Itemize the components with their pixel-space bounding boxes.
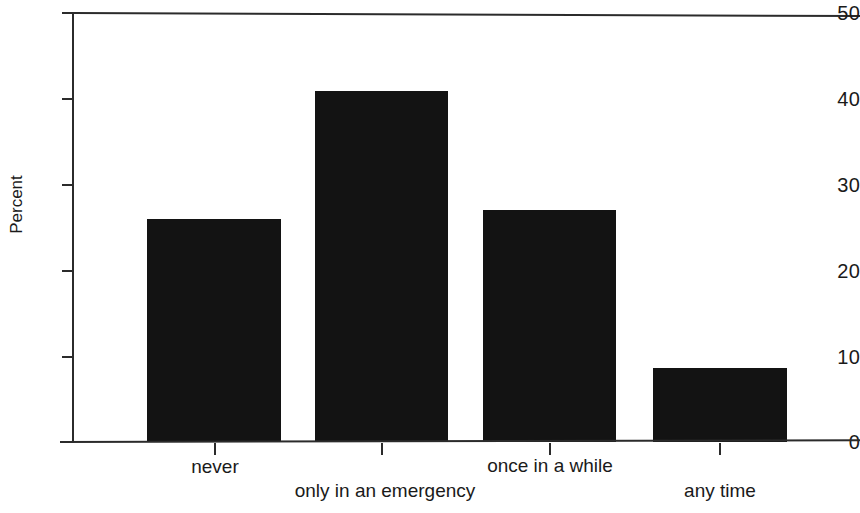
y-tick-mark-30: [62, 184, 73, 186]
x-axis-label-only-in-an-emergency: only in an emergency: [285, 481, 485, 500]
x-tick-mark-never: [214, 443, 216, 455]
y-axis-title: Percent: [8, 155, 25, 255]
bar-once-in-a-while: [483, 210, 616, 442]
y-tick-mark-40: [62, 98, 73, 100]
y-tick-label-40: 40: [808, 89, 860, 109]
y-tick-label-50: 50: [808, 3, 860, 23]
y-tick-mark-20: [62, 270, 73, 272]
y-tick-mark-50: [62, 12, 73, 14]
y-tick-label-10: 10: [808, 347, 860, 367]
x-axis-label-any-time: any time: [650, 481, 790, 500]
bar-chart-figure: Percent 50 40 30 20 10 0 never on: [0, 0, 860, 513]
x-tick-mark-once-in-a-while: [549, 443, 551, 455]
y-axis-line: [72, 13, 74, 443]
bar-only-in-an-emergency: [315, 91, 448, 442]
x-tick-mark-only-in-an-emergency: [381, 443, 383, 455]
x-axis-label-never: never: [135, 457, 295, 476]
y-tick-label-20: 20: [808, 261, 860, 281]
x-axis-label-once-in-a-while: once in a while: [470, 456, 630, 475]
x-tick-mark-any-time: [719, 443, 721, 455]
y-tick-label-30: 30: [808, 175, 860, 195]
bar-any-time: [653, 368, 787, 442]
y-tick-label-0: 0: [808, 432, 860, 452]
bar-never: [147, 219, 281, 442]
plot-area: Percent 50 40 30 20 10 0 never on: [0, 0, 860, 513]
y-tick-mark-10: [62, 356, 73, 358]
x-axis-line: [60, 439, 860, 443]
top-border-rule: [72, 12, 860, 17]
